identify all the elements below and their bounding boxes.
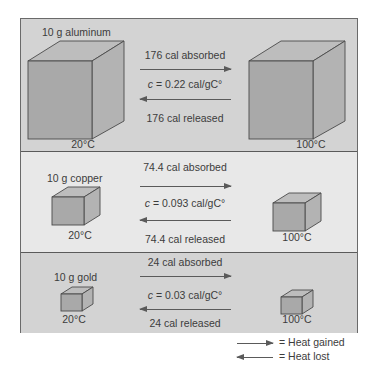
released-label: 74.4 cal released (145, 233, 225, 245)
absorbed-label: 24 cal absorbed (148, 256, 223, 268)
heat-lost-arrow (140, 309, 231, 310)
heat-gained-arrow (140, 186, 231, 187)
end-temp: 100°C (282, 313, 311, 325)
legend-gained-arrow (237, 343, 273, 344)
legend-lost-arrow (237, 357, 273, 358)
diagram-frame: 10 g aluminum 20°C 176 cal absorbed c = … (20, 18, 358, 333)
end-temp: 100°C (296, 138, 325, 150)
released-label: 176 cal released (146, 112, 223, 124)
specific-heat-label: c = 0.22 cal/gC° (148, 78, 223, 90)
released-label: 24 cal released (149, 317, 220, 329)
panel-copper: 10 g copper 20°C 74.4 cal absorbed c = 0… (21, 151, 357, 252)
panel-aluminum: 10 g aluminum 20°C 176 cal absorbed c = … (21, 19, 357, 151)
absorbed-label: 176 cal absorbed (145, 49, 226, 61)
start-temp: 20°C (62, 313, 85, 325)
heat-gained-arrow (140, 276, 231, 277)
legend-lost-label: = Heat lost (279, 350, 330, 362)
metal-label: 10 g gold (54, 271, 97, 283)
specific-heat-label: c = 0.093 cal/gC° (145, 197, 225, 209)
panel-gold: 10 g gold 20°C 24 cal absorbed c = 0.03 … (21, 252, 357, 333)
heat-lost-arrow (140, 220, 231, 221)
cube-icon (28, 41, 128, 141)
end-temp: 100°C (282, 231, 311, 243)
heat-gained-arrow (140, 69, 231, 70)
specific-heat-label: c = 0.03 cal/gC° (148, 289, 223, 301)
metal-label: 10 g aluminum (42, 26, 111, 38)
heat-lost-arrow (140, 99, 231, 100)
start-temp: 20°C (71, 138, 94, 150)
legend-gained-label: = Heat gained (279, 336, 345, 348)
start-temp: 20°C (68, 229, 91, 241)
cube-icon (249, 41, 349, 141)
absorbed-label: 74.4 cal absorbed (143, 161, 226, 173)
metal-label: 10 g copper (47, 172, 102, 184)
